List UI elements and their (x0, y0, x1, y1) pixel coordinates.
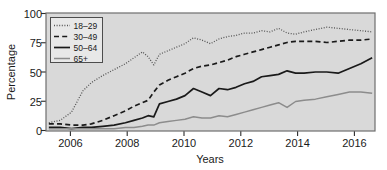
line-chart-svg: 100 75 50 25 0 Percentage 2006 2008 2010… (0, 0, 387, 170)
y-tick-label-75: 75 (30, 37, 42, 49)
x-tick-label-2006: 2006 (58, 137, 82, 149)
legend-label-65plus: 65+ (74, 54, 88, 64)
y-tick-label-50: 50 (30, 67, 42, 79)
legend: 18–29 30–49 50–64 65+ (51, 18, 103, 64)
x-tick-label-2014: 2014 (285, 137, 309, 149)
y-tick-label-25: 25 (30, 96, 42, 108)
y-axis-title: Percentage (5, 44, 17, 100)
y-tick-label-100: 100 (24, 8, 42, 20)
x-tick-label-2016: 2016 (342, 137, 366, 149)
x-axis-title: Years (196, 153, 224, 165)
x-tick-label-2008: 2008 (115, 137, 139, 149)
x-tick-label-2012: 2012 (229, 137, 253, 149)
legend-label-50-64: 50–64 (74, 43, 98, 53)
x-tick-label-2010: 2010 (172, 137, 196, 149)
chart-figure: 100 75 50 25 0 Percentage 2006 2008 2010… (0, 0, 387, 170)
legend-label-18-29: 18–29 (74, 21, 98, 31)
legend-label-30-49: 30–49 (74, 32, 98, 42)
